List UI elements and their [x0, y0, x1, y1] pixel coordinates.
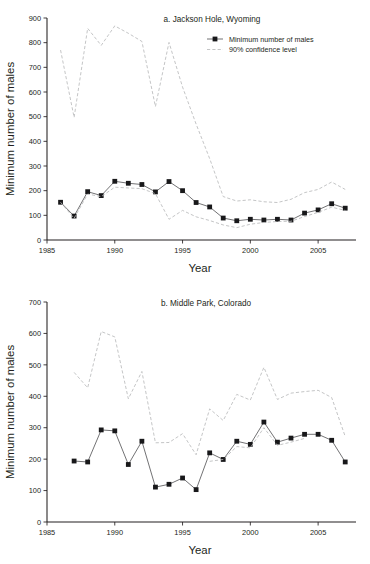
data-point-marker	[167, 482, 172, 487]
series-minimum-males	[72, 420, 348, 492]
legend: Minimum number of males90% confidence le…	[207, 35, 314, 55]
axes	[47, 302, 356, 522]
y-tick-label: 100	[29, 211, 41, 220]
legend-label-series: Minimum number of males	[229, 35, 314, 44]
data-point-marker	[126, 462, 131, 467]
y-tick-label: 0	[37, 518, 41, 527]
axes	[47, 18, 356, 240]
y-axis-title: Minimum number of males	[4, 345, 16, 480]
data-point-marker	[221, 216, 226, 221]
legend-series-marker	[213, 37, 218, 42]
series-confidence-level	[61, 26, 346, 203]
plot-svg: 0100200300400500600700198519901995200020…	[0, 282, 370, 564]
y-tick-label: 800	[29, 38, 41, 47]
data-point-marker	[329, 201, 334, 206]
x-axis-title: Year	[188, 262, 211, 274]
x-tick-label: 2000	[242, 246, 258, 255]
x-tick-label: 1995	[174, 246, 190, 255]
data-point-marker	[112, 179, 117, 184]
x-tick-label: 2000	[242, 528, 258, 537]
chart-panel-a: 0100200300400500600700800900198519901995…	[0, 0, 370, 282]
y-tick-label: 500	[29, 112, 41, 121]
y-tick-label: 600	[29, 88, 41, 97]
x-axis-ticks: 19851990199520002005	[39, 522, 327, 537]
y-tick-label: 400	[29, 392, 41, 401]
y-axis-ticks: 0100200300400500600700800900	[29, 14, 47, 245]
x-tick-label: 1995	[174, 528, 190, 537]
data-point-marker	[289, 436, 294, 441]
data-point-marker	[85, 189, 90, 194]
data-point-marker	[180, 476, 185, 481]
y-axis-title: Minimum number of males	[4, 62, 16, 197]
legend-label-confidence: 90% confidence level	[229, 45, 297, 54]
data-point-marker	[234, 218, 239, 223]
x-tick-label: 1990	[107, 528, 123, 537]
data-point-marker	[275, 217, 280, 222]
data-point-marker	[302, 432, 307, 437]
data-point-marker	[194, 200, 199, 205]
y-tick-label: 300	[29, 162, 41, 171]
data-point-marker	[194, 487, 199, 492]
data-point-marker	[167, 179, 172, 184]
data-point-marker	[343, 460, 348, 465]
y-tick-label: 700	[29, 298, 41, 307]
data-point-marker	[85, 460, 90, 465]
data-point-marker	[207, 450, 212, 455]
data-point-marker	[99, 428, 104, 433]
panel-title: a. Jackson Hole, Wyoming	[164, 15, 261, 24]
data-point-marker	[112, 428, 117, 433]
data-point-marker	[153, 190, 158, 195]
y-tick-label: 200	[29, 186, 41, 195]
y-tick-label: 600	[29, 329, 41, 338]
data-point-marker	[261, 218, 266, 223]
x-tick-label: 1985	[39, 528, 55, 537]
plot-svg: 0100200300400500600700800900198519901995…	[0, 0, 370, 282]
data-point-marker	[261, 420, 266, 425]
data-point-marker	[316, 432, 321, 437]
y-tick-label: 500	[29, 361, 41, 370]
data-point-marker	[302, 211, 307, 216]
data-point-marker	[329, 438, 334, 443]
data-point-marker	[139, 439, 144, 444]
panel-title: b. Middle Park, Colorado	[161, 299, 252, 308]
data-point-marker	[234, 439, 239, 444]
data-point-marker	[343, 206, 348, 211]
x-tick-label: 1990	[107, 246, 123, 255]
x-tick-label: 2005	[310, 528, 326, 537]
data-point-marker	[126, 181, 131, 186]
x-tick-label: 1985	[39, 246, 55, 255]
y-tick-label: 200	[29, 455, 41, 464]
y-axis-ticks: 0100200300400500600700	[29, 298, 47, 527]
data-point-marker	[139, 182, 144, 187]
data-point-marker	[207, 205, 212, 210]
x-axis-ticks: 19851990199520002005	[39, 240, 327, 255]
data-point-marker	[180, 188, 185, 193]
y-tick-label: 300	[29, 423, 41, 432]
y-tick-label: 0	[37, 236, 41, 245]
y-tick-label: 100	[29, 486, 41, 495]
y-tick-label: 900	[29, 14, 41, 23]
x-axis-title: Year	[188, 544, 211, 556]
data-point-marker	[248, 217, 253, 222]
data-point-marker	[72, 459, 77, 464]
y-tick-label: 400	[29, 137, 41, 146]
x-tick-label: 2005	[310, 246, 326, 255]
chart-panel-b: 0100200300400500600700198519901995200020…	[0, 282, 370, 564]
data-point-marker	[275, 440, 280, 445]
figure-container: 0100200300400500600700800900198519901995…	[0, 0, 370, 564]
y-tick-label: 700	[29, 63, 41, 72]
data-point-marker	[153, 485, 158, 490]
